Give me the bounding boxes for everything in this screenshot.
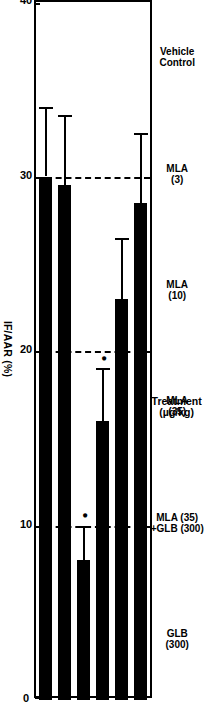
bar-group: [58, 2, 71, 696]
category-label: MLA (35) +GLB (300): [151, 513, 204, 535]
bar-group: [115, 2, 128, 696]
tick-label-30: 30: [20, 169, 32, 181]
gridline-20: [36, 351, 150, 353]
tick-mark-0: [35, 697, 40, 699]
tick-label-10: 10: [20, 518, 32, 530]
category-axis-title: Treatment (µg/kg): [152, 396, 202, 419]
value-axis-tick-labels: 010203040: [18, 0, 32, 698]
bar-group: [134, 2, 147, 696]
error-bar: [121, 238, 123, 299]
bar-group: •: [77, 2, 90, 696]
tick-mark-40: [35, 3, 40, 5]
tick-mark-30: [35, 177, 40, 179]
error-bar-cap: [96, 368, 110, 370]
bar: [115, 299, 128, 700]
category-label: MLA (10): [166, 280, 188, 302]
value-axis-title: IF/AAR (%): [2, 0, 14, 698]
bar: [39, 177, 52, 701]
bar-group: [39, 2, 52, 696]
tick-mark-10: [35, 526, 40, 528]
gridline-10: [36, 526, 150, 528]
error-bar: [140, 133, 142, 203]
category-label: GLB (300): [166, 629, 189, 651]
error-bar-cap: [134, 133, 148, 135]
error-bar: [64, 115, 66, 185]
tick-label-40: 40: [20, 0, 32, 6]
plot-area: ••: [34, 0, 152, 698]
error-bar: [102, 368, 104, 420]
bars-container: ••: [36, 2, 150, 696]
bar: [77, 560, 90, 700]
bar-group: •: [96, 2, 109, 696]
bar: [134, 203, 147, 700]
category-label: MLA (3): [166, 164, 188, 186]
category-label: Vehicle Control: [159, 47, 195, 69]
error-bar-cap: [39, 107, 53, 109]
bar: [96, 421, 109, 700]
bar: [58, 185, 71, 700]
category-axis-labels: Vehicle ControlMLA (3)MLA (10)MLA (35)ML…: [154, 0, 202, 698]
error-bar-cap: [58, 115, 72, 117]
error-bar: [45, 107, 47, 177]
tick-mark-20: [35, 351, 40, 353]
tick-label-0: 0: [23, 692, 29, 704]
error-bar: [83, 526, 85, 561]
tick-label-20: 20: [20, 343, 32, 355]
error-bar-cap: [115, 238, 129, 240]
gridline-30: [36, 177, 150, 179]
